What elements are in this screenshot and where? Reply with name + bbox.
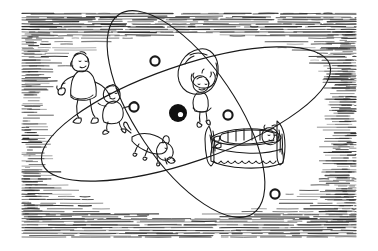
nucleus-core <box>169 104 187 122</box>
nucleus-highlight <box>178 112 183 117</box>
orbit-marker-4 <box>270 189 279 198</box>
orbit-marker-2 <box>129 102 138 111</box>
orbit-marker-3 <box>223 110 232 119</box>
orbit-marker-1 <box>150 56 159 65</box>
pen-sketch-illustration <box>0 0 378 251</box>
nucleus <box>169 104 187 122</box>
illustration-canvas: Family Orbiting a Central Body hand-draw… <box>0 0 378 251</box>
